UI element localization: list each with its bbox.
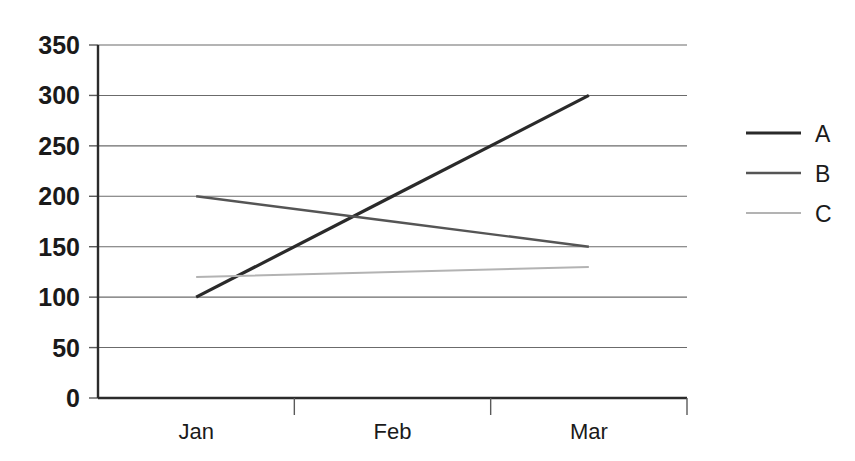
y-tick-label: 50 xyxy=(52,334,80,362)
x-tick-label: Feb xyxy=(374,419,412,444)
y-tick-label: 250 xyxy=(38,132,80,160)
chart-canvas: 050100150200250300350 JanFebMar ABC xyxy=(0,0,855,461)
y-axis-tick-labels: 050100150200250300350 xyxy=(38,31,80,412)
y-tick-label: 300 xyxy=(38,81,80,109)
y-tick-label: 200 xyxy=(38,182,80,210)
legend-label-b: B xyxy=(815,161,830,187)
x-tick-label: Jan xyxy=(178,419,213,444)
line-chart: 050100150200250300350 JanFebMar ABC xyxy=(0,0,855,461)
x-tick-marks xyxy=(294,398,687,415)
legend-label-a: A xyxy=(815,121,831,147)
y-tick-label: 350 xyxy=(38,31,80,59)
y-tick-marks xyxy=(89,45,98,398)
legend: ABC xyxy=(746,121,832,227)
y-tick-label: 150 xyxy=(38,233,80,261)
series-line-b xyxy=(196,196,589,246)
y-tick-label: 100 xyxy=(38,283,80,311)
legend-label-c: C xyxy=(815,201,832,227)
x-axis-tick-labels: JanFebMar xyxy=(178,419,607,444)
y-tick-label: 0 xyxy=(66,384,80,412)
x-tick-label: Mar xyxy=(570,419,608,444)
